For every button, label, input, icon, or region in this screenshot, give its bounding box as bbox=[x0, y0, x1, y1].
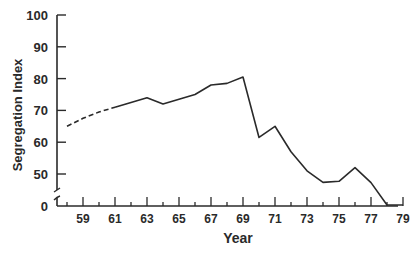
y-tick-label: 0 bbox=[41, 199, 48, 214]
chart-canvas: 05060708090100 5961636567697173757779 Se… bbox=[0, 0, 410, 254]
y-tick-label: 70 bbox=[34, 103, 48, 118]
x-tick-label: 73 bbox=[300, 212, 314, 226]
y-tick-label: 90 bbox=[34, 40, 48, 55]
y-axis-label: Segregation Index bbox=[10, 58, 25, 171]
x-axis-label: Year bbox=[223, 230, 253, 246]
x-tick-label: 71 bbox=[268, 212, 282, 226]
y-tick-label: 100 bbox=[26, 8, 48, 23]
x-tick-label: 63 bbox=[140, 212, 154, 226]
x-tick-label: 67 bbox=[204, 212, 218, 226]
x-tick-label: 77 bbox=[364, 212, 378, 226]
y-tick-label: 60 bbox=[34, 135, 48, 150]
x-tick-label: 79 bbox=[396, 212, 410, 226]
series-line-dashed bbox=[67, 107, 115, 126]
x-tick-label: 75 bbox=[332, 212, 346, 226]
x-tick-label: 59 bbox=[76, 212, 90, 226]
x-axis-ticks: 5961636567697173757779 bbox=[67, 197, 410, 226]
x-tick-label: 69 bbox=[236, 212, 250, 226]
data-series bbox=[67, 77, 403, 205]
segregation-index-chart: 05060708090100 5961636567697173757779 Se… bbox=[0, 0, 410, 254]
y-tick-label: 80 bbox=[34, 72, 48, 87]
series-line-solid bbox=[115, 77, 403, 205]
y-tick-label: 50 bbox=[34, 167, 48, 182]
y-axis-ticks: 05060708090100 bbox=[26, 8, 66, 214]
x-tick-label: 65 bbox=[172, 212, 186, 226]
x-tick-label: 61 bbox=[108, 212, 122, 226]
